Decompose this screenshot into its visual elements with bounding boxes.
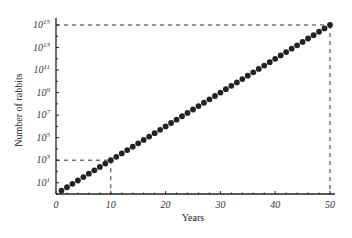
data-point (81, 174, 87, 180)
data-point (239, 76, 245, 82)
y-tick-label: 107 (37, 108, 51, 120)
data-point (91, 167, 97, 173)
data-point (300, 39, 306, 45)
data-point (86, 171, 92, 177)
x-tick-label: 50 (325, 199, 335, 210)
y-tick-label: 101 (37, 176, 51, 188)
x-axis-title: Years (182, 212, 204, 223)
data-point (196, 103, 202, 109)
data-point (245, 73, 251, 79)
data-point (174, 117, 180, 123)
data-point (146, 134, 152, 140)
data-point (179, 113, 185, 119)
data-point (311, 32, 317, 38)
data-point (272, 56, 278, 62)
data-point (130, 144, 136, 150)
data-point (102, 161, 108, 167)
data-point (70, 181, 76, 187)
y-tick-label: 109 (37, 86, 51, 98)
data-point (327, 22, 333, 28)
data-point (228, 83, 234, 89)
data-point (261, 63, 267, 69)
data-point (190, 107, 196, 113)
data-point (305, 36, 311, 42)
y-axis-title: Number of rabbits (13, 73, 24, 146)
y-tick-label: 105 (37, 131, 51, 143)
data-point (294, 42, 300, 48)
y-tick-label: 1013 (33, 41, 51, 53)
data-point (223, 86, 229, 92)
x-tick-label: 0 (54, 199, 59, 210)
data-point (163, 124, 169, 130)
data-point (289, 46, 295, 52)
x-tick-label: 40 (270, 199, 280, 210)
data-point (322, 25, 328, 31)
data-point (75, 178, 81, 184)
data-point (135, 140, 141, 146)
data-point (141, 137, 147, 143)
data-points (59, 22, 333, 193)
y-tick-label: 103 (37, 153, 51, 165)
data-point (97, 164, 103, 170)
data-point (256, 66, 262, 72)
data-point (124, 147, 130, 153)
y-tick-label: 1011 (34, 63, 50, 75)
data-point (201, 100, 207, 106)
data-point (64, 184, 70, 190)
data-point (168, 120, 174, 126)
data-point (152, 130, 158, 136)
data-point (108, 157, 114, 163)
y-tick-label: 1015 (33, 18, 51, 30)
rabbit-growth-chart: 101103105107109101110131015 01020304050 … (0, 0, 352, 238)
data-point (218, 90, 224, 96)
data-point (278, 53, 284, 59)
x-tick-label: 30 (214, 199, 225, 210)
data-point (316, 29, 322, 35)
data-point (119, 151, 125, 157)
data-point (207, 96, 213, 102)
data-point (113, 154, 119, 160)
y-axis-ticks: 101103105107109101110131015 (33, 18, 59, 194)
data-point (250, 69, 256, 75)
data-point (212, 93, 218, 99)
x-tick-label: 20 (161, 199, 171, 210)
data-point (234, 80, 240, 86)
data-point (283, 49, 289, 55)
data-point (185, 110, 191, 116)
data-point (59, 188, 65, 194)
data-point (267, 59, 273, 65)
x-tick-label: 10 (106, 199, 116, 210)
data-point (157, 127, 163, 133)
